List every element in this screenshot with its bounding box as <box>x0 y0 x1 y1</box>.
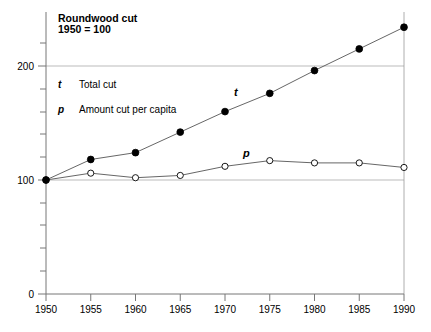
series-p-point <box>401 164 407 170</box>
series-p-point <box>88 170 94 176</box>
series-label-p: p <box>242 147 250 159</box>
x-tick-label-1975: 1975 <box>259 304 282 315</box>
x-tick-label-1985: 1985 <box>348 304 371 315</box>
chart-canvas: 200 100 0 1950 1955 1960 1965 1970 1975 … <box>0 0 431 332</box>
series-p-point <box>356 160 362 166</box>
series-t-point <box>87 156 94 163</box>
x-tick-label-1990: 1990 <box>393 304 416 315</box>
series-t-point <box>177 129 184 136</box>
y-tick-label-100: 100 <box>17 175 34 186</box>
y-axis: 200 100 0 <box>17 12 46 300</box>
chart-subtitle: 1950 = 100 <box>58 23 111 35</box>
series-t-point <box>311 67 318 74</box>
y-tick-label-200: 200 <box>17 61 34 72</box>
series-p-point <box>311 160 317 166</box>
legend-key-p: p <box>57 104 64 115</box>
x-tick-label-1965: 1965 <box>169 304 192 315</box>
series-label-t: t <box>234 86 239 98</box>
x-tick-label-1970: 1970 <box>214 304 237 315</box>
series-p-point <box>222 163 228 169</box>
legend-label-t: Total cut <box>79 79 116 90</box>
chart-title-block: Roundwood cut 1950 = 100 <box>58 12 138 35</box>
legend-label-p: Amount cut per capita <box>79 104 177 115</box>
series-t-point <box>401 24 408 31</box>
series-t-point <box>43 177 50 184</box>
x-tick-label-1950: 1950 <box>35 304 58 315</box>
series-t-point <box>222 108 229 115</box>
legend: t Total cut p Amount cut per capita <box>57 79 177 115</box>
inline-series-labels: t p <box>234 86 250 159</box>
y-tick-label-0: 0 <box>28 289 34 300</box>
series-p-point <box>177 172 183 178</box>
series-p-point <box>132 175 138 181</box>
x-tick-label-1960: 1960 <box>124 304 147 315</box>
x-tick-label-1955: 1955 <box>80 304 103 315</box>
roundwood-cut-chart: 200 100 0 1950 1955 1960 1965 1970 1975 … <box>0 0 431 332</box>
legend-key-t: t <box>58 79 62 90</box>
x-axis: 1950 1955 1960 1965 1970 1975 1980 1985 … <box>35 294 416 315</box>
series-p-point <box>267 158 273 164</box>
series-t-point <box>132 149 139 156</box>
series-t-point <box>356 46 363 53</box>
x-tick-label-1980: 1980 <box>303 304 326 315</box>
series-p-markers <box>43 158 407 184</box>
series-t-point <box>266 90 273 97</box>
